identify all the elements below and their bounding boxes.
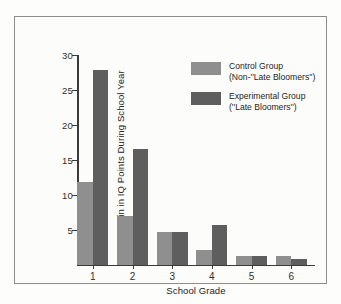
bar-control-grade-5 (236, 256, 252, 264)
y-tick-label: 25 (62, 84, 73, 95)
legend-label-experimental-line1: Experimental Group (229, 91, 305, 102)
legend-label-experimental: Experimental Group (''Late Bloomers'') (229, 91, 305, 112)
x-tick-label-1: 1 (90, 271, 96, 282)
bar-experimental-grade-4 (212, 225, 228, 265)
y-tick-label: 20 (62, 119, 73, 130)
y-tick-label: 15 (62, 154, 73, 165)
x-tick-label-5: 5 (249, 271, 255, 282)
x-tick-mark (212, 265, 213, 269)
bar-control-grade-4 (196, 250, 212, 265)
x-tick-label-2: 2 (130, 271, 136, 282)
legend-label-control-line2: (Non-''Late Bloomers'') (229, 72, 315, 83)
x-tick-mark (172, 265, 173, 269)
x-tick-mark (133, 265, 134, 269)
x-tick-mark (291, 265, 292, 269)
y-tick-label: 10 (62, 189, 73, 200)
legend-label-control: Control Group (Non-''Late Bloomers'') (229, 61, 315, 82)
legend-swatch-control-icon (191, 62, 221, 75)
bar-experimental-grade-6 (291, 259, 307, 265)
x-tick-label-4: 4 (209, 271, 215, 282)
x-tick-mark (93, 265, 94, 269)
bar-experimental-grade-3 (172, 232, 188, 264)
legend-swatch-experimental-icon (191, 92, 221, 105)
bar-experimental-grade-2 (133, 149, 149, 264)
legend: Control Group (Non-''Late Bloomers'') Ex… (191, 61, 315, 121)
bar-experimental-grade-1 (93, 70, 109, 264)
legend-item-experimental: Experimental Group (''Late Bloomers'') (191, 91, 315, 112)
chart-figure: Gain in IQ Points During School Year Sch… (0, 0, 341, 304)
figure-frame: Gain in IQ Points During School Year Sch… (14, 16, 327, 284)
y-tick-label: 5 (68, 224, 73, 235)
y-tick-label: 30 (62, 50, 73, 61)
bar-experimental-grade-5 (252, 256, 268, 264)
x-tick-label-6: 6 (288, 271, 294, 282)
x-tick-label-3: 3 (169, 271, 175, 282)
bar-control-grade-2 (117, 216, 133, 264)
x-axis-title: School Grade (77, 285, 315, 296)
bar-control-grade-6 (276, 256, 292, 264)
x-axis-line (77, 265, 315, 267)
bar-control-grade-3 (157, 232, 173, 264)
x-tick-mark (252, 265, 253, 269)
legend-item-control: Control Group (Non-''Late Bloomers'') (191, 61, 315, 82)
legend-label-experimental-line2: (''Late Bloomers'') (229, 102, 305, 113)
legend-label-control-line1: Control Group (229, 61, 315, 72)
bar-control-grade-1 (77, 182, 93, 264)
